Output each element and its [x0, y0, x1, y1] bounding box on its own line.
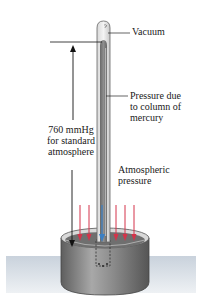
- height-label-line-1: 760 mmHg: [42, 124, 100, 135]
- atmospheric-pressure-label: Atmospheric pressure: [118, 164, 198, 186]
- vacuum-label-text: Vacuum: [132, 26, 165, 37]
- atm-label-line-2: pressure: [118, 175, 198, 186]
- column-label-line-2: to column of: [130, 101, 202, 112]
- barometer-diagram: Vacuum Pressure due to column of mercury…: [0, 0, 202, 303]
- barometer-illustration: [0, 0, 202, 303]
- vacuum-label: Vacuum: [132, 26, 165, 37]
- height-label-line-3: atmosphere: [42, 146, 100, 157]
- height-label: 760 mmHg for standard atmosphere: [42, 124, 100, 157]
- mercury-column-label: Pressure due to column of mercury: [130, 90, 202, 123]
- column-label-line-3: mercury: [130, 112, 202, 123]
- column-label-line-1: Pressure due: [130, 90, 202, 101]
- height-label-line-2: for standard: [42, 135, 100, 146]
- atm-label-line-1: Atmospheric: [118, 164, 198, 175]
